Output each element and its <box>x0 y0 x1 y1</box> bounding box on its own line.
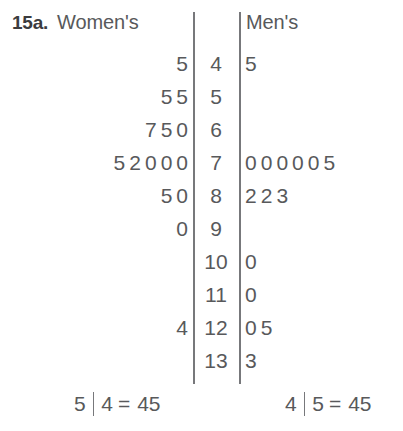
stem-value: 7 <box>193 151 239 175</box>
stem-row: 133 <box>0 349 403 382</box>
leaf-digit: 0 <box>276 151 288 175</box>
exercise-number: 15a. <box>12 12 48 34</box>
leaf-digit: 7 <box>145 118 157 142</box>
leaf-digit: 5 <box>114 151 126 175</box>
leaf-digit: 0 <box>176 217 188 241</box>
leaf-digit: 2 <box>261 184 273 208</box>
stem-value: 11 <box>193 283 239 307</box>
left-leaves: 4 <box>176 316 188 340</box>
leaf-digit: 2 <box>129 151 141 175</box>
leaf-digit: 5 <box>161 118 173 142</box>
right-leaves: 3 <box>245 349 257 373</box>
leaf-digit: 0 <box>261 151 273 175</box>
leaf-digit: 0 <box>245 283 257 307</box>
stem-value: 6 <box>193 118 239 142</box>
leaf-digit: 0 <box>292 151 304 175</box>
left-leaves: 0 <box>176 217 188 241</box>
left-leaves: 750 <box>145 118 188 142</box>
leaf-digit: 0 <box>245 316 257 340</box>
stem-value: 9 <box>193 217 239 241</box>
stem-row: 508223 <box>0 184 403 217</box>
stem-and-leaf-figure: 15a. Women's Men's 545555750652000700000… <box>0 0 403 431</box>
leaf-digit: 0 <box>308 151 320 175</box>
leaf-digit: 5 <box>261 316 273 340</box>
left-column-header: Women's <box>57 11 139 34</box>
stem-row: 545 <box>0 52 403 85</box>
plot-rows: 5455557506520007000005508223091001104120… <box>0 52 403 382</box>
leaf-digit: 4 <box>176 316 188 340</box>
leaf-digit: 3 <box>276 184 288 208</box>
stem-row: 110 <box>0 283 403 316</box>
stem-value: 4 <box>193 52 239 76</box>
left-key-bar-icon <box>93 392 95 416</box>
stem-value: 10 <box>193 250 239 274</box>
left-leaves: 50 <box>161 184 188 208</box>
right-key-bar-icon <box>304 392 306 416</box>
leaf-digit: 0 <box>176 151 188 175</box>
leaf-digit: 5 <box>161 85 173 109</box>
stem-row: 09 <box>0 217 403 250</box>
right-key-leaf: 4 <box>285 392 297 416</box>
stem-value: 5 <box>193 85 239 109</box>
leaf-digit: 2 <box>245 184 257 208</box>
stem-value: 12 <box>193 316 239 340</box>
leaf-digit: 5 <box>176 52 188 76</box>
left-leaves: 55 <box>161 85 188 109</box>
stem-value: 13 <box>193 349 239 373</box>
left-key-stem: 4 <box>101 392 113 416</box>
left-leaves: 52000 <box>114 151 188 175</box>
right-key-equals: = <box>329 392 341 416</box>
left-key-leaf: 5 <box>74 392 86 416</box>
leaf-digit: 0 <box>245 250 257 274</box>
right-leaves: 05 <box>245 316 272 340</box>
stem-row: 555 <box>0 85 403 118</box>
leaf-digit: 5 <box>245 52 257 76</box>
leaf-digit: 0 <box>176 118 188 142</box>
right-key: 4 5 = 45 <box>285 392 372 416</box>
right-key-value: 45 <box>348 392 371 416</box>
left-key: 5 4 = 45 <box>74 392 161 416</box>
leaf-digit: 0 <box>145 151 157 175</box>
left-key-equals: = <box>118 392 130 416</box>
leaf-digit: 3 <box>245 349 257 373</box>
right-leaves: 0 <box>245 283 257 307</box>
leaf-digit: 5 <box>161 184 173 208</box>
stem-value: 8 <box>193 184 239 208</box>
stem-row: 520007000005 <box>0 151 403 184</box>
leaf-digit: 5 <box>323 151 335 175</box>
left-key-value: 45 <box>137 392 160 416</box>
right-column-header: Men's <box>246 11 298 34</box>
right-leaves: 000005 <box>245 151 335 175</box>
right-leaves: 223 <box>245 184 288 208</box>
plot-keys: 5 4 = 45 4 5 = 45 <box>0 392 403 426</box>
leaf-digit: 0 <box>176 184 188 208</box>
stem-row: 7506 <box>0 118 403 151</box>
stem-row: 100 <box>0 250 403 283</box>
leaf-digit: 5 <box>176 85 188 109</box>
right-leaves: 5 <box>245 52 257 76</box>
stem-row: 41205 <box>0 316 403 349</box>
leaf-digit: 0 <box>161 151 173 175</box>
plot-header: 15a. Women's Men's <box>0 8 403 42</box>
right-leaves: 0 <box>245 250 257 274</box>
right-key-stem: 5 <box>312 392 324 416</box>
left-leaves: 5 <box>176 52 188 76</box>
leaf-digit: 0 <box>245 151 257 175</box>
